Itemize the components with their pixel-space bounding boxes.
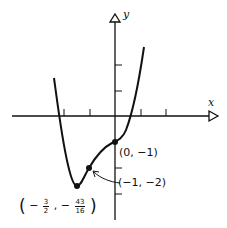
y-sign: − — [61, 199, 70, 212]
callout-arrow — [94, 172, 120, 183]
graph-canvas — [0, 0, 227, 228]
open-paren: ( — [19, 196, 26, 216]
y-axis-label: y — [123, 8, 129, 21]
y-fraction: 43 16 — [75, 198, 86, 215]
x-denominator: 2 — [44, 207, 48, 215]
point-minimum — [74, 183, 80, 189]
separator: , — [54, 199, 58, 212]
x-axis-label: x — [208, 96, 214, 109]
y-axis-arrow-icon — [110, 14, 120, 22]
x-sign: − — [29, 199, 38, 212]
point-neg1-neg2 — [86, 165, 92, 171]
y-ticks — [115, 65, 122, 194]
point-label-minimum: ( − 3 2 , − 43 16 ) — [19, 196, 97, 216]
y-denominator: 16 — [76, 207, 85, 215]
x-fraction: 3 2 — [43, 198, 49, 215]
point-label-neg1-neg2: (−1, −2) — [118, 176, 166, 189]
point-0-neg1 — [112, 139, 118, 145]
x-numerator: 3 — [43, 198, 49, 207]
function-graph: y x (0, −1) (−1, −2) ( − 3 2 , − 43 16 ) — [0, 0, 227, 228]
y-numerator: 43 — [75, 198, 86, 207]
close-paren: ) — [90, 196, 97, 216]
x-axis-arrow-icon — [209, 111, 218, 121]
point-label-0-neg1: (0, −1) — [119, 146, 158, 159]
